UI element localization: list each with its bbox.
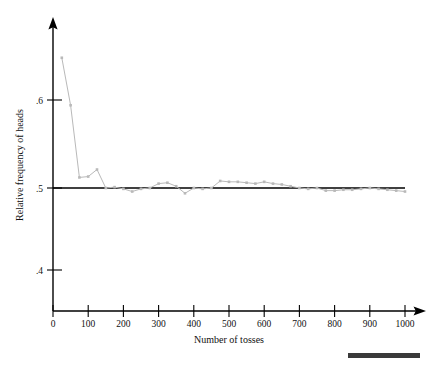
data-point-marker (325, 189, 328, 192)
data-point-marker (342, 188, 345, 191)
y-tick-label-0.5: .5 (36, 184, 43, 194)
x-tick-label-100: 100 (81, 319, 96, 329)
x-tick-label-500: 500 (222, 319, 237, 329)
data-point-marker (175, 185, 178, 188)
figure-root: .6 .5 .4 0 100 200 300 400 500 600 (0, 0, 435, 368)
footer-rule-bar (348, 353, 420, 358)
data-point-marker (245, 181, 248, 184)
y-axis-title: Relative frequency of heads (14, 109, 25, 221)
data-point-marker (404, 190, 407, 193)
data-point-marker (281, 183, 284, 186)
data-point-marker (289, 185, 292, 188)
x-axis-title: Number of tosses (194, 334, 264, 345)
data-point-marker (78, 176, 81, 179)
data-point-marker (395, 189, 398, 192)
data-series-group (61, 56, 407, 194)
x-tick-label-600: 600 (257, 319, 272, 329)
data-point-marker (360, 188, 363, 191)
x-tick-label-800: 800 (327, 319, 342, 329)
data-point-marker (210, 187, 213, 190)
data-point-marker (333, 189, 336, 192)
data-point-marker (228, 181, 231, 184)
data-point-marker (307, 188, 310, 191)
data-point-marker (87, 175, 90, 178)
relative-frequency-chart: .6 .5 .4 0 100 200 300 400 500 600 (0, 0, 435, 368)
y-tick-labels: .6 .5 .4 (36, 96, 43, 276)
x-tick-label-700: 700 (292, 319, 307, 329)
x-tick-label-400: 400 (187, 319, 202, 329)
data-point-marker (201, 188, 204, 191)
data-point-marker (157, 182, 160, 185)
data-point-marker (184, 192, 187, 195)
data-point-marker (61, 56, 64, 59)
y-tick-marks (47, 100, 62, 270)
data-point-marker (69, 104, 72, 107)
data-point-marker (351, 188, 354, 191)
data-point-marker (377, 188, 380, 191)
x-tick-label-1000: 1000 (396, 319, 415, 329)
data-point-marker (272, 182, 275, 185)
data-point-marker (96, 168, 99, 171)
data-point-marker (219, 180, 222, 183)
x-tick-label-0: 0 (51, 319, 56, 329)
data-point-marker (254, 182, 257, 185)
data-point-marker (298, 187, 301, 190)
x-tick-labels: 0 100 200 300 400 500 600 700 800 900 10… (51, 319, 415, 329)
data-point-marker (166, 181, 169, 184)
data-point-marker (316, 187, 319, 190)
x-tick-label-300: 300 (151, 319, 166, 329)
y-axis (48, 17, 57, 311)
y-tick-label-0.4: .4 (36, 266, 43, 276)
data-point-marker (369, 187, 372, 190)
x-tick-label-900: 900 (363, 319, 378, 329)
data-point-marker (237, 181, 240, 184)
data-point-marker (263, 181, 266, 184)
data-point-marker (131, 190, 134, 193)
data-point-marker (386, 188, 389, 191)
data-point-marker (105, 187, 108, 190)
x-tick-label-200: 200 (116, 319, 131, 329)
data-point-marker (193, 187, 196, 190)
data-point-marker (122, 188, 125, 191)
series-line-0 (62, 58, 405, 194)
data-point-marker (113, 186, 116, 189)
data-point-marker (149, 187, 152, 190)
data-point-marker (140, 188, 143, 191)
y-tick-label-0.6: .6 (36, 96, 43, 106)
